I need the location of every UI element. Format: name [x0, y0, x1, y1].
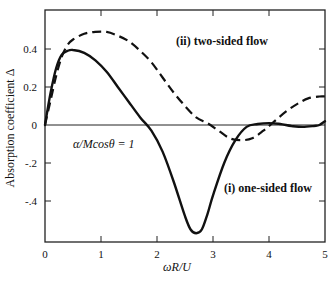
annotation-two-sided: (ii) two-sided flow — [176, 34, 268, 48]
annotation-one-sided: (i) one-sided flow — [224, 181, 312, 195]
y-tick-label: -.2 — [25, 157, 37, 169]
x-tick-label: 4 — [266, 248, 272, 260]
x-tick-label: 2 — [154, 248, 160, 260]
annotation-parameter: α/Mcosθ = 1 — [73, 137, 135, 151]
x-tick-label: 3 — [210, 248, 216, 260]
absorption-chart: 012345-.4-.200.20.4 (ii) two-sided flow … — [0, 0, 333, 284]
tick-labels: 012345-.4-.200.20.4 — [23, 43, 328, 260]
x-tick-label: 1 — [98, 248, 104, 260]
x-tick-label: 5 — [322, 248, 328, 260]
y-tick-label: -.4 — [25, 195, 37, 207]
y-tick-label: 0.4 — [23, 43, 37, 55]
y-tick-label: 0 — [32, 119, 38, 131]
y-tick-label: 0.2 — [23, 81, 37, 93]
x-axis-title: ωR/U — [163, 260, 192, 274]
y-axis-title: Absorption coefficient Δ — [3, 68, 17, 187]
x-tick-label: 0 — [42, 248, 48, 260]
